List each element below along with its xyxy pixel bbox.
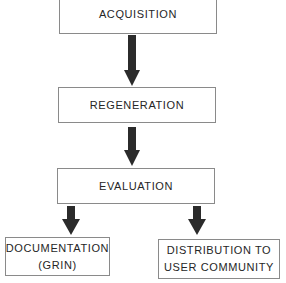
arrow-down-icon [62, 206, 80, 236]
node-distribution: DISTRIBUTION TO USER COMMUNITY [158, 239, 280, 279]
node-acquisition-label: ACQUISITION [99, 6, 177, 23]
arrow-down-icon [123, 35, 141, 87]
arrow-down-icon [188, 206, 206, 236]
node-distribution-line-1: DISTRIBUTION TO [167, 242, 272, 259]
node-distribution-line-2: USER COMMUNITY [164, 259, 274, 276]
node-evaluation-label: EVALUATION [99, 178, 173, 195]
node-acquisition: ACQUISITION [59, 0, 217, 34]
node-regeneration-label: REGENERATION [90, 97, 184, 114]
node-documentation: DOCUMENTATION (GRIN) [5, 237, 110, 276]
node-documentation-line-1: DOCUMENTATION [6, 240, 109, 257]
arrow-down-icon [123, 127, 141, 167]
node-evaluation: EVALUATION [57, 168, 215, 204]
node-regeneration: REGENERATION [58, 87, 216, 123]
node-documentation-line-2: (GRIN) [38, 257, 76, 274]
